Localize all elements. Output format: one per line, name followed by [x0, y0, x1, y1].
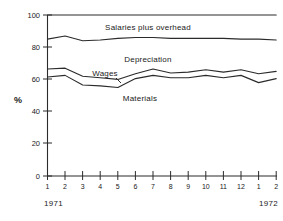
band-label-depreciation: Depreciation — [124, 55, 171, 64]
y-axis-title: % — [14, 95, 22, 105]
band-label-salaries: Salaries plus overhead — [105, 23, 191, 32]
y-tick-label-0: 0 — [36, 172, 40, 181]
x-tick-label-7: 7 — [151, 183, 155, 190]
y-tick-label-20: 20 — [32, 139, 40, 148]
y-tick-label-80: 80 — [32, 43, 40, 52]
band-label-wages: Wages — [92, 69, 118, 78]
x-tick-label-11: 11 — [220, 183, 227, 190]
x-tick-label-14: 2 — [274, 183, 278, 190]
x-tick-label-10: 10 — [202, 183, 210, 190]
x-tick-label-5: 5 — [116, 183, 120, 190]
x-tick-label-13: 1 — [257, 183, 261, 190]
cumulative-percentage-chart: 100 80 60 40 20 0 % 1 2 3 4 5 6 7 8 9 10… — [0, 0, 283, 221]
series-line-wages-upper — [48, 68, 277, 79]
x-group-label-1972: 1972 — [259, 199, 278, 208]
x-tick-label-6: 6 — [133, 183, 137, 190]
series-line-materials-upper — [48, 75, 277, 87]
y-tick-label-100: 100 — [27, 11, 40, 20]
x-tick-label-9: 9 — [186, 183, 190, 190]
chart-container: 100 80 60 40 20 0 % 1 2 3 4 5 6 7 8 9 10… — [0, 0, 283, 221]
x-tick-label-2: 2 — [63, 183, 67, 190]
x-tick-label-3: 3 — [81, 183, 85, 190]
band-label-materials: Materials — [123, 94, 157, 103]
y-tick-label-60: 60 — [32, 75, 40, 84]
x-tick-label-12: 12 — [237, 183, 245, 190]
x-group-label-1971: 1971 — [44, 199, 63, 208]
x-tick-label-4: 4 — [98, 183, 102, 190]
x-tick-label-8: 8 — [169, 183, 173, 190]
y-tick-label-40: 40 — [32, 107, 40, 116]
series-line-depreciation-upper — [48, 36, 277, 41]
x-tick-label-1: 1 — [46, 183, 50, 190]
